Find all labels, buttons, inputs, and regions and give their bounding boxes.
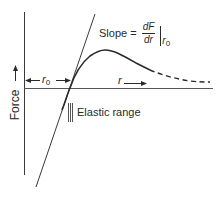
slope-formula: Slope = dF dr r0 (99, 22, 170, 45)
slope-label: Slope = (99, 28, 137, 39)
evaluation-bar (160, 26, 161, 46)
force-axis-label: Force (9, 90, 21, 121)
r-label-text: r (118, 74, 122, 86)
slope-numerator: dF (142, 22, 156, 34)
force-curve-dashed-tail (150, 70, 210, 82)
slope-denominator: dr (144, 34, 153, 45)
slope-eval-subscript: 0 (166, 39, 170, 48)
elastic-range-text: Elastic range (77, 106, 141, 118)
r0-subscript: 0 (46, 78, 50, 87)
r-axis-label: r (118, 75, 122, 86)
force-label-text: Force (8, 90, 22, 121)
elastic-range-label: Elastic range (77, 107, 141, 118)
slope-evaluation-point: r0 (162, 36, 170, 48)
slope-fraction: dF dr (142, 22, 156, 45)
force-separation-diagram: Force r0 r Elastic range Slope = dF dr r… (0, 0, 223, 197)
r0-label: r0 (42, 74, 50, 87)
force-curve-solid (62, 50, 150, 110)
